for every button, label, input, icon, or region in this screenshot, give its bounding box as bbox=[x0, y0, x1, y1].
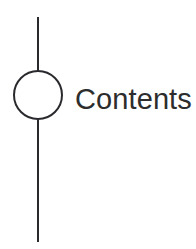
circle-marker-icon bbox=[14, 71, 62, 119]
page-root: Contents bbox=[0, 0, 196, 249]
page-title: Contents bbox=[75, 84, 192, 114]
contents-divider-diagram bbox=[0, 0, 196, 249]
